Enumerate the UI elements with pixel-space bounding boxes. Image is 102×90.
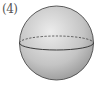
sphere-diagram [0, 0, 102, 90]
sphere-body [20, 6, 94, 80]
